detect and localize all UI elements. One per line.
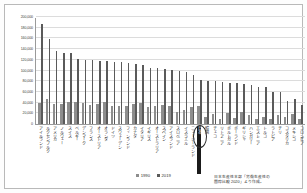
bar-2019	[200, 80, 202, 124]
x-axis-label: トルコ	[261, 126, 268, 174]
legend-swatch-icon	[136, 174, 139, 177]
bar-group	[181, 18, 188, 124]
bar-group	[232, 18, 239, 124]
bar-group	[80, 18, 87, 124]
bar-group	[66, 18, 73, 124]
x-axis-label: フランス	[87, 126, 94, 174]
bar-2019	[128, 63, 130, 124]
x-axis-label: コロンビア	[297, 126, 304, 174]
gridline	[36, 16, 305, 17]
bar-2019	[215, 81, 217, 124]
x-axis-label: カナダ	[130, 126, 137, 174]
x-axis-label: スペイン	[159, 126, 166, 174]
y-axis-tick: 60,000	[23, 91, 33, 95]
bar-2019	[171, 70, 173, 124]
screenshot-root: 020,00040,00060,00080,000100,000120,0001…	[0, 0, 307, 193]
y-axis: 020,00040,00060,00080,000100,000120,0001…	[5, 14, 34, 129]
x-axis-label: メキシコ	[290, 126, 297, 174]
legend-swatch-icon	[157, 174, 160, 177]
legend-label: 1990	[141, 173, 150, 178]
x-axis-label: イスラエル	[181, 126, 188, 174]
bar-2019	[106, 61, 108, 124]
bar-group	[282, 18, 289, 124]
bar-2019	[294, 99, 296, 124]
y-axis-tick: 40,000	[23, 102, 33, 106]
bar-group	[268, 18, 275, 124]
x-axis-label: ルクセンブルク	[43, 126, 50, 174]
bar-2019	[99, 61, 101, 124]
bar-2019	[229, 83, 231, 124]
x-axis-label: ノルウェー	[58, 126, 65, 174]
bar-group	[153, 18, 160, 124]
x-axis-label: ドイツ	[109, 126, 116, 174]
bar-group	[210, 18, 217, 124]
bar-2019	[142, 65, 144, 124]
legend-label: 2019	[162, 173, 171, 178]
x-axis-label: ハンガリー	[246, 126, 253, 174]
bar-2019	[301, 105, 303, 124]
bar-2019	[258, 87, 260, 124]
x-axis-label: フィンランド	[123, 126, 130, 174]
bar-group	[203, 18, 210, 124]
bar-2019	[251, 85, 253, 124]
bar-2019	[280, 92, 282, 124]
x-axis-label: エストニア	[254, 126, 261, 174]
bar-2019	[207, 81, 209, 124]
bar-2019	[56, 51, 58, 124]
legend-item: 2019	[157, 173, 171, 178]
bar-group	[88, 18, 95, 124]
x-axis-labels: アイルランドルクセンブルクアメリカノルウェースイスベルギーデンマークフランスオー…	[35, 126, 305, 174]
bar-group	[124, 18, 131, 124]
x-axis-label: ポーランド	[232, 126, 239, 174]
bar-2019	[236, 83, 238, 124]
bar-2019	[272, 92, 274, 124]
x-axis-label: アメリカ	[51, 126, 58, 174]
legend-item: 1990	[136, 173, 150, 178]
bar-group	[246, 18, 253, 124]
bar-group	[261, 18, 268, 124]
bar-group	[160, 18, 167, 124]
x-axis-label: オランダ	[101, 126, 108, 174]
bar-2019	[222, 82, 224, 124]
y-axis-tick: 200,000	[21, 16, 33, 20]
plot-area	[35, 18, 305, 125]
bar-2019	[157, 68, 159, 124]
bar-group	[290, 18, 297, 124]
y-axis-tick: 160,000	[21, 37, 33, 41]
bar-group	[225, 18, 232, 124]
x-axis-label: アイスランド	[167, 126, 174, 174]
y-axis-tick: 20,000	[23, 112, 33, 116]
bar-2019	[63, 53, 65, 124]
bar-series-container	[36, 18, 305, 124]
chart-frame: 020,00040,00060,00080,000100,000120,0001…	[4, 4, 303, 189]
y-axis-tick: 180,000	[21, 27, 33, 31]
source-line-2: 国際比較 2020」より作成。	[214, 180, 294, 185]
x-axis-label: チェコ	[210, 126, 217, 174]
y-axis-tick: 100,000	[21, 70, 33, 74]
x-axis-label: コスタリカ	[283, 126, 290, 174]
bar-group	[59, 18, 66, 124]
bar-group	[167, 18, 174, 124]
x-axis-label: オーストリア	[94, 126, 101, 174]
x-axis-label: ラトビア	[268, 126, 275, 174]
bar-group	[51, 18, 58, 124]
bar-group	[109, 18, 116, 124]
bar-group	[131, 18, 138, 124]
bar-group	[174, 18, 181, 124]
y-axis-tick: 0	[31, 123, 33, 127]
bar-2019	[77, 59, 79, 124]
bar-2019	[287, 101, 289, 124]
y-axis-tick: 80,000	[23, 80, 33, 84]
x-axis-label: アイルランド	[36, 126, 43, 174]
bar-group	[254, 18, 261, 124]
x-axis-label: オーストラリア	[152, 126, 159, 174]
bar-2019	[265, 87, 267, 124]
bar-group	[37, 18, 44, 124]
bar-group	[73, 18, 80, 124]
x-axis-label: チリ	[275, 126, 282, 174]
bar-2019	[243, 84, 245, 124]
bar-2019	[121, 62, 123, 124]
bar-2019	[135, 64, 137, 124]
y-axis-tick: 140,000	[21, 48, 33, 52]
y-axis-tick: 120,000	[21, 59, 33, 63]
